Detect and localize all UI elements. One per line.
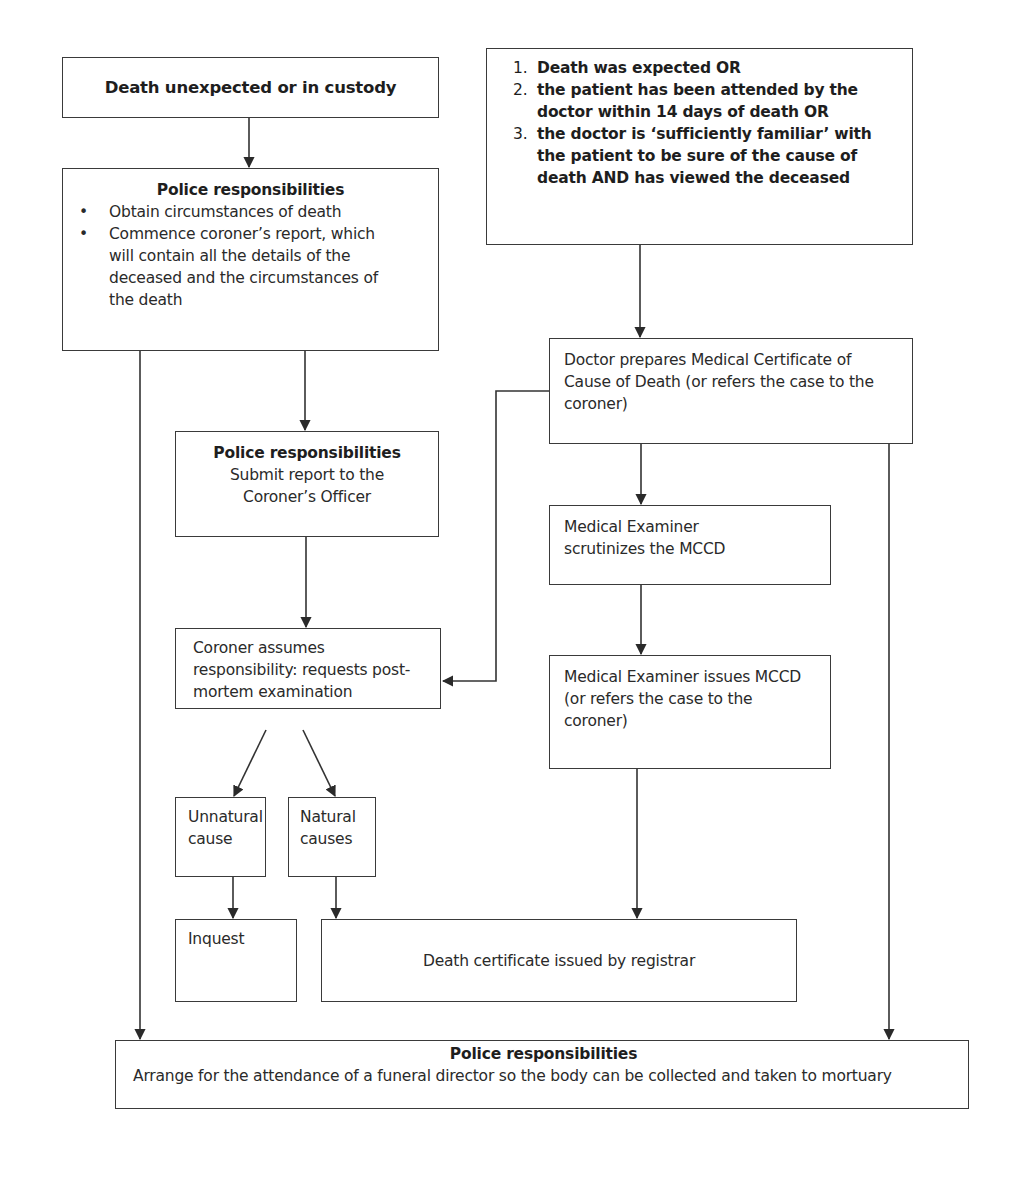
node-police-responsibilities-2: Police responsibilities Submit report to… — [175, 431, 439, 537]
node-title: Death unexpected or in custody — [105, 77, 397, 99]
item-number: 3. — [513, 123, 527, 145]
item-number: 2. — [513, 79, 527, 101]
node-text: Submit report to the Coroner’s Officer — [206, 464, 408, 508]
item-number: 1. — [513, 57, 527, 79]
bullet-item: Commence coroner’s report, which will co… — [63, 223, 379, 311]
node-doctor-prepares-mccd: Doctor prepares Medical Certificate of C… — [549, 338, 913, 444]
node-me-scrutinizes: Medical Examiner scrutinizes the MCCD — [549, 505, 831, 585]
node-text: Coroner assumes responsibility: requests… — [193, 639, 410, 701]
arrow-coroner-to-natural — [303, 730, 335, 796]
item-text: the doctor is ‘sufficiently familiar’ wi… — [537, 125, 872, 187]
node-text: Unnatural cause — [188, 808, 263, 848]
node-expected-death-criteria: 1.Death was expected OR 2.the patient ha… — [486, 48, 913, 245]
node-title: Police responsibilities — [206, 442, 408, 464]
criteria-item: 3.the doctor is ‘sufficiently familiar’ … — [513, 123, 898, 189]
node-text: Natural causes — [300, 808, 356, 848]
node-death-unexpected: Death unexpected or in custody — [62, 57, 439, 118]
node-title: Police responsibilities — [63, 179, 438, 201]
node-police-responsibilities-1: Police responsibilities Obtain circumsta… — [62, 168, 439, 351]
node-police-responsibilities-final: Police responsibilities Arrange for the … — [115, 1040, 969, 1109]
arrow-doctor-to-coroner — [443, 391, 549, 681]
item-text: the patient has been attended by the doc… — [537, 81, 858, 121]
node-natural-causes: Natural causes — [288, 797, 376, 877]
node-text: Medical Examiner issues MCCD (or refers … — [564, 668, 801, 730]
node-me-issues-mccd: Medical Examiner issues MCCD (or refers … — [549, 655, 831, 769]
node-death-certificate: Death certificate issued by registrar — [321, 919, 797, 1002]
node-text: Arrange for the attendance of a funeral … — [133, 1065, 954, 1087]
arrow-coroner-to-unnatural — [234, 730, 266, 796]
node-text: Inquest — [188, 930, 244, 948]
node-coroner-assumes-responsibility: Coroner assumes responsibility: requests… — [175, 628, 441, 709]
criteria-item: 2.the patient has been attended by the d… — [513, 79, 898, 123]
node-text: Medical Examiner scrutinizes the MCCD — [564, 518, 725, 558]
node-text: Doctor prepares Medical Certificate of C… — [564, 351, 874, 413]
node-title: Police responsibilities — [133, 1043, 954, 1065]
bullet-list: Obtain circumstances of death Commence c… — [63, 201, 438, 311]
item-text: Death was expected OR — [537, 59, 741, 77]
node-text: Death certificate issued by registrar — [423, 950, 695, 972]
criteria-item: 1.Death was expected OR — [513, 57, 898, 79]
bullet-item: Obtain circumstances of death — [63, 201, 428, 223]
node-unnatural-cause: Unnatural cause — [175, 797, 266, 877]
criteria-list: 1.Death was expected OR 2.the patient ha… — [513, 57, 898, 189]
node-inquest: Inquest — [175, 919, 297, 1002]
